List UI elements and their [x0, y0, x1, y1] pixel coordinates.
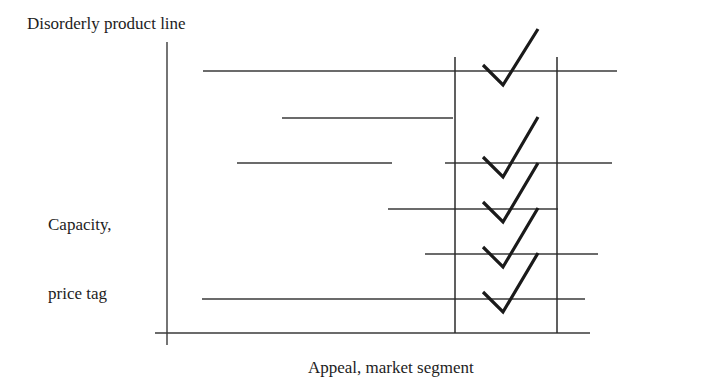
check-icon-4 [483, 208, 538, 267]
check-icon-1 [483, 29, 538, 85]
y-axis-label-line-2: price tag [48, 283, 112, 306]
check-icon-3 [483, 163, 538, 222]
check-icon-5 [483, 253, 538, 312]
target-band-group [455, 57, 557, 333]
y-axis-label: Capacity, price tag [48, 168, 112, 352]
product-lines-group [202, 71, 617, 299]
check-icon-2 [483, 117, 538, 177]
y-axis-label-line-1: Capacity, [48, 214, 112, 237]
figure-canvas: Disorderly product line Capacity, price … [0, 0, 722, 392]
x-axis-label: Appeal, market segment [308, 357, 474, 380]
figure-title: Disorderly product line [27, 13, 186, 36]
